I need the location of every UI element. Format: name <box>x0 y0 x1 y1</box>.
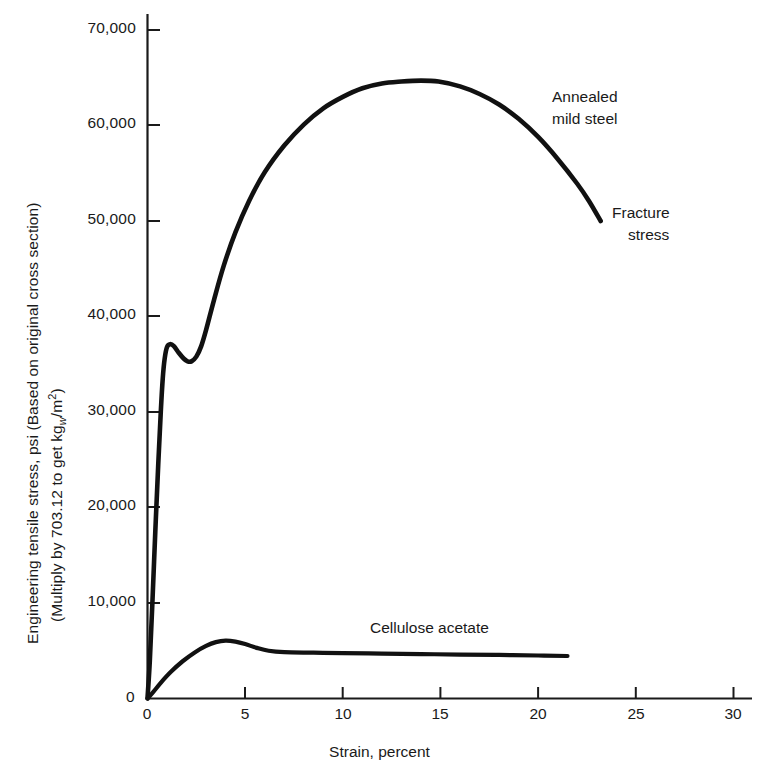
x-tick-label-30: 30 <box>703 705 759 723</box>
curve-cellulose-acetate <box>148 641 568 699</box>
y-tick-label-20000: 20,000 <box>24 496 136 514</box>
y-tick-label-60000: 60,000 <box>24 114 136 132</box>
stress-strain-chart: Engineering tensile stress, psi (Based o… <box>0 0 759 775</box>
y-axis-label-line1: Engineering tensile stress, psi (Based o… <box>24 202 42 644</box>
annotation-steel-line1: Annealed <box>552 88 618 105</box>
annotation-fracture-line1: Fracture <box>612 204 670 221</box>
y-tick-label-70000: 70,000 <box>24 19 136 37</box>
x-axis-label: Strain, percent <box>0 743 759 761</box>
y-axis-label-superscript: 2 <box>46 394 58 400</box>
y-axis-label-line2-c: ) <box>48 388 65 393</box>
x-tick-label-20: 20 <box>508 705 568 723</box>
x-tick-label-5: 5 <box>215 705 275 723</box>
y-tick-label-50000: 50,000 <box>24 210 136 228</box>
annotation-cellulose-acetate: Cellulose acetate <box>370 617 489 639</box>
x-tick-label-15: 15 <box>410 705 470 723</box>
curve-annealed-mild-steel <box>148 81 601 699</box>
x-tick-label-0: 0 <box>117 705 177 723</box>
annotation-steel-line2: mild steel <box>552 110 617 127</box>
annotation-fracture-stress: Fracture stress <box>612 202 670 247</box>
x-tick-label-25: 25 <box>606 705 666 723</box>
y-tick-label-30000: 30,000 <box>24 401 136 419</box>
x-axis-ticks <box>245 687 734 699</box>
annotation-fracture-line2: stress <box>628 224 670 246</box>
annotation-annealed-mild-steel: Annealed mild steel <box>552 86 618 131</box>
y-tick-label-10000: 10,000 <box>24 592 136 610</box>
y-tick-label-0: 0 <box>126 688 135 706</box>
x-tick-label-10: 10 <box>313 705 373 723</box>
y-tick-label-40000: 40,000 <box>24 305 136 323</box>
